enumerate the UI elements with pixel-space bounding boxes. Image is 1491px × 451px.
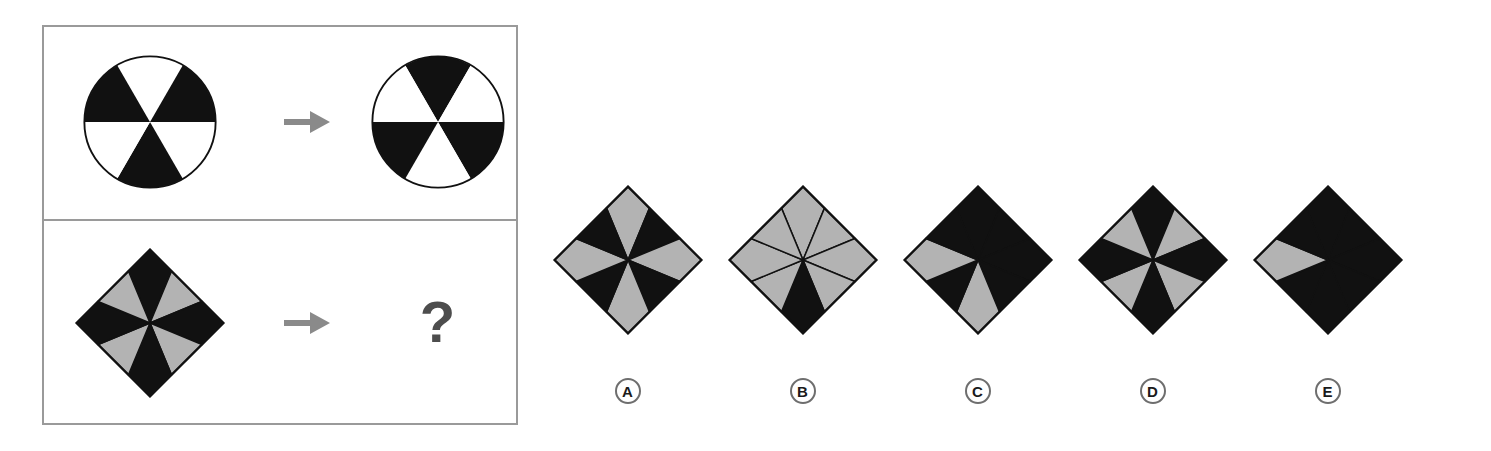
option-d-figure[interactable] (1073, 170, 1233, 350)
option-e-figure[interactable] (1248, 170, 1408, 350)
circle-result (363, 47, 513, 197)
diamond-source-sectors (76, 250, 223, 397)
option-e[interactable]: E (1240, 170, 1415, 430)
option-d[interactable]: D (1065, 170, 1240, 430)
option-d-label[interactable]: D (1140, 378, 1166, 404)
row1-source-cell (42, 25, 257, 219)
option-b-label[interactable]: B (790, 378, 816, 404)
circle-source-figure (75, 47, 225, 197)
option-a-figure[interactable] (548, 170, 708, 350)
row2-result-cell: ? (357, 221, 518, 425)
option-b[interactable]: B (715, 170, 890, 430)
option-c[interactable]: C (890, 170, 1065, 430)
option-a[interactable]: A (540, 170, 715, 430)
option-a-sectors (554, 187, 701, 334)
row1-result-cell (357, 25, 518, 219)
circle-source (75, 47, 225, 197)
row1-arrow-cell (257, 25, 357, 219)
diamond-source-figure (70, 243, 230, 403)
option-a-label[interactable]: A (615, 378, 641, 404)
row2-source-cell (42, 221, 257, 425)
answer-options: A B C D (540, 170, 1420, 430)
option-e-label[interactable]: E (1315, 378, 1341, 404)
option-c-figure[interactable] (898, 170, 1058, 350)
option-c-label[interactable]: C (965, 378, 991, 404)
row2-arrow-cell (257, 221, 357, 425)
circle-result-figure (363, 47, 513, 197)
option-b-figure[interactable] (723, 170, 883, 350)
arrow-right-icon (284, 109, 330, 135)
option-c-sectors (904, 187, 1051, 334)
option-d-sectors (1079, 187, 1226, 334)
analogy-row-1 (42, 25, 518, 219)
diamond-source (70, 243, 230, 403)
arrow-right-icon-2 (284, 310, 330, 336)
option-b-sectors (729, 187, 876, 334)
question-mark: ? (420, 293, 455, 351)
option-e-sectors (1254, 187, 1401, 334)
puzzle-canvas: ? A B C (0, 0, 1491, 451)
analogy-row-2: ? (42, 221, 518, 425)
